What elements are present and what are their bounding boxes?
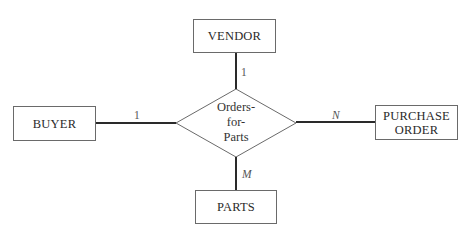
entity-parts-label: PARTS [217,200,255,214]
relationship-label-line2: for- [206,115,266,130]
relationship-label-line3: Parts [206,130,266,145]
cardinality-buyer: 1 [134,109,140,121]
entity-purchase-order: PURCHASE ORDER [375,105,458,140]
relationship-label: Orders- for- Parts [206,100,266,145]
cardinality-vendor: 1 [241,66,247,78]
entity-vendor: VENDOR [193,19,276,53]
cardinality-parts: M [242,168,252,180]
entity-purchase-order-label-line1: PURCHASE [383,109,450,123]
entity-purchase-order-label-line2: ORDER [395,123,438,137]
entity-parts: PARTS [195,190,277,224]
relationship-label-line1: Orders- [206,100,266,115]
entity-vendor-label: VENDOR [208,29,261,43]
entity-buyer: BUYER [13,106,96,141]
cardinality-purchase-order: N [332,109,340,121]
entity-buyer-label: BUYER [33,117,76,131]
er-diagram: VENDOR BUYER PURCHASE ORDER PARTS Orders… [0,0,472,234]
